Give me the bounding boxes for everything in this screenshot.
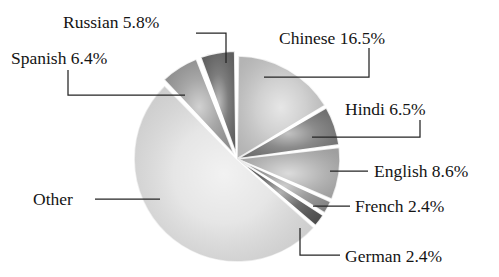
pie-chart-figure: Chinese 16.5%Hindi 6.5%English 8.6%Frenc… <box>0 0 499 277</box>
pie-slices <box>134 51 340 262</box>
slice-label-french: French 2.4% <box>355 196 444 216</box>
slice-label-english: English 8.6% <box>374 161 468 181</box>
pie-chart-svg: Chinese 16.5%Hindi 6.5%English 8.6%Frenc… <box>0 0 499 277</box>
slice-label-spanish: Spanish 6.4% <box>11 48 107 68</box>
slice-label-chinese: Chinese 16.5% <box>279 28 385 48</box>
slice-label-hindi: Hindi 6.5% <box>345 99 426 119</box>
slice-label-russian: Russian 5.8% <box>63 12 159 32</box>
slice-label-other: Other <box>33 189 73 209</box>
slice-label-german: German 2.4% <box>345 246 442 266</box>
